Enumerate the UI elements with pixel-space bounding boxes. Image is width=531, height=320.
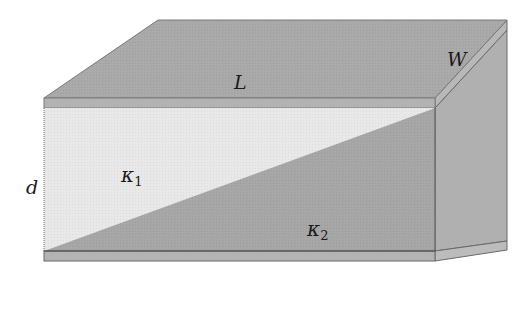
kappa2-symbol: κ	[307, 217, 320, 241]
capacitor-diagram: L W d κ1 κ2	[0, 0, 531, 320]
bottom-plate-edge	[44, 251, 435, 261]
top-plate-edge	[44, 98, 435, 108]
width-label: W	[447, 50, 467, 69]
kappa1-subscript: 1	[134, 174, 142, 189]
kappa1-symbol: κ	[121, 163, 134, 187]
kappa2-label: κ2	[307, 219, 328, 242]
length-label: L	[234, 73, 247, 92]
separation-label: d	[26, 178, 38, 197]
kappa1-label: κ1	[121, 165, 142, 188]
kappa2-subscript: 2	[320, 228, 328, 243]
